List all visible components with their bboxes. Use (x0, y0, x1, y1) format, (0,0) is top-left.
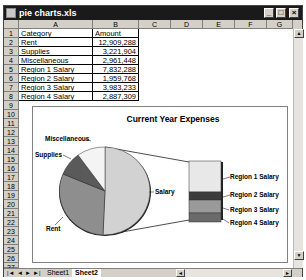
row-header[interactable]: 2 (4, 38, 19, 47)
prev-sheet-button[interactable]: ◄ (17, 269, 23, 277)
bar-segment-region-2[interactable] (189, 192, 221, 200)
row-header[interactable]: 15 (4, 155, 19, 164)
last-sheet-button[interactable]: ►| (33, 269, 41, 277)
row-header[interactable]: 10 (4, 110, 19, 119)
row-header[interactable]: 6 (4, 74, 19, 83)
table-row-category[interactable]: Region 4 Salary (19, 92, 93, 101)
label-region-2-salary: Region 2 Salary (230, 191, 279, 199)
table-row-category[interactable]: Region 3 Salary (19, 83, 93, 92)
scroll-down-button[interactable]: ▼ (294, 251, 304, 260)
column-header-f[interactable]: F (235, 20, 267, 29)
row-header[interactable]: 16 (4, 164, 19, 173)
first-sheet-button[interactable]: |◄ (7, 269, 15, 277)
label-supplies: Supplies (35, 151, 62, 159)
column-header-g[interactable]: G (267, 20, 293, 29)
close-button[interactable]: × (289, 8, 299, 18)
horizontal-scrollbar[interactable]: ◄ ► (176, 268, 292, 277)
embedded-chart[interactable]: Current Year Expenses Miscellaneous Supp… (32, 106, 288, 263)
column-header-d[interactable]: D (171, 20, 203, 29)
column-header-e[interactable]: E (203, 20, 235, 29)
row-header[interactable]: 20 (4, 200, 19, 209)
row-header[interactable]: 9 (4, 101, 19, 110)
maximize-button[interactable]: □ (276, 8, 286, 18)
label-salary: Salary (155, 188, 175, 196)
row-header[interactable]: 26 (4, 254, 19, 263)
table-row-amount[interactable]: 3,221,904 (93, 47, 139, 56)
row-header[interactable]: 14 (4, 146, 19, 155)
scroll-up-button[interactable]: ▲ (294, 29, 304, 38)
table-row-category[interactable]: Rent (19, 38, 93, 47)
title-bar[interactable]: pie charts.xls _ □ × (4, 6, 302, 20)
table-row-category[interactable]: Region 1 Salary (19, 65, 93, 74)
label-region-1-salary: Region 1 Salary (230, 173, 279, 181)
row-header[interactable]: 21 (4, 209, 19, 218)
next-sheet-button[interactable]: ► (25, 269, 31, 277)
table-row-category[interactable]: Supplies (19, 47, 93, 56)
row-header[interactable]: 8 (4, 92, 19, 101)
column-header-b[interactable]: B (93, 20, 139, 29)
row-header[interactable]: 11 (4, 119, 19, 128)
minimize-button[interactable]: _ (264, 8, 274, 18)
row-header[interactable]: 13 (4, 137, 19, 146)
row-header[interactable]: 22 (4, 218, 19, 227)
row-header[interactable]: 23 (4, 227, 19, 236)
table-row-amount[interactable]: 7,832,288 (93, 65, 139, 74)
tab-sheet2[interactable]: Sheet2 (72, 269, 101, 277)
bar-of-pie-chart: Current Year Expenses Miscellaneous Supp… (33, 107, 287, 262)
label-region-4-salary: Region 4 Salary (230, 219, 279, 227)
label-miscellaneous: Miscellaneous (45, 135, 90, 142)
window-title: pie charts.xls (19, 6, 77, 20)
column-header-a[interactable]: A (19, 20, 93, 29)
chart-title: Current Year Expenses (127, 114, 220, 124)
bar-segment-region-1[interactable] (189, 161, 221, 192)
row-header[interactable]: 24 (4, 236, 19, 245)
cell-a1[interactable]: Category (19, 29, 93, 38)
row-header[interactable]: 17 (4, 173, 19, 182)
scroll-left-button[interactable]: ◄ (176, 269, 185, 277)
select-all-corner[interactable] (4, 20, 19, 29)
column-header-c[interactable]: C (139, 20, 171, 29)
table-row-amount[interactable]: 2,887,309 (93, 92, 139, 101)
table-row-category[interactable]: Region 2 Salary (19, 74, 93, 83)
row-header[interactable]: 5 (4, 65, 19, 74)
label-rent: Rent (46, 225, 61, 232)
row-header[interactable]: 19 (4, 191, 19, 200)
tab-sheet1[interactable]: Sheet1 (44, 269, 72, 277)
table-row-amount[interactable]: 3,983,233 (93, 83, 139, 92)
label-region-3-salary: Region 3 Salary (230, 206, 279, 214)
row-header[interactable]: 18 (4, 182, 19, 191)
row-header[interactable]: 4 (4, 56, 19, 65)
table-row-category[interactable]: Miscellaneous (19, 56, 93, 65)
pie-slice-salary[interactable] (103, 147, 150, 235)
row-header[interactable]: 3 (4, 47, 19, 56)
vertical-scrollbar[interactable]: ▲ ▼ (293, 29, 303, 268)
table-row-amount[interactable]: 1,959,768 (93, 74, 139, 83)
table-row-amount[interactable]: 12,909,288 (93, 38, 139, 47)
cell-b1[interactable]: Amount (93, 29, 139, 38)
table-row-amount[interactable]: 2,961,448 (93, 56, 139, 65)
workbook-window: pie charts.xls _ □ × A B C D E F G 1 2 3… (3, 5, 303, 277)
bar-segment-region-4[interactable] (189, 213, 221, 222)
bar-segment-region-3[interactable] (189, 200, 221, 213)
row-header[interactable]: 1 (4, 29, 19, 38)
row-header[interactable]: 12 (4, 128, 19, 137)
row-header[interactable]: 7 (4, 83, 19, 92)
excel-icon[interactable] (6, 8, 16, 18)
scroll-right-button[interactable]: ► (283, 269, 292, 277)
row-header[interactable]: 25 (4, 245, 19, 254)
